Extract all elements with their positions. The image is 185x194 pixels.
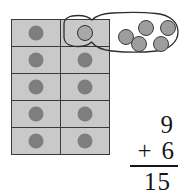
plus-sign: +: [137, 138, 151, 163]
balloon-counter-dot: [153, 36, 169, 52]
ten-frame: [11, 19, 110, 155]
counter-dot: [29, 26, 44, 41]
counter-dot: [29, 80, 44, 95]
ten-frame-cell: [60, 19, 110, 47]
ten-frame-cell: [60, 100, 110, 128]
ten-frame-cell: [11, 19, 61, 47]
addition-total: 15: [112, 169, 180, 194]
counter-dot: [78, 134, 93, 149]
counter-dot: [29, 53, 44, 68]
addend-second: 6: [162, 138, 175, 163]
ten-frame-cell: [11, 100, 61, 128]
ten-frame-cell: [60, 46, 110, 74]
counter-dot: [29, 134, 44, 149]
ten-frame-cell: [11, 73, 61, 101]
vertical-addition-problem: 9 + 6 15: [112, 112, 180, 194]
addition-rule-line: [130, 165, 178, 167]
worksheet-figure: 9 + 6 15: [0, 0, 185, 194]
balloon-counter-dot: [160, 20, 176, 36]
counter-dot: [29, 107, 44, 122]
circled-counter-dot: [77, 25, 93, 41]
ten-frame-cell: [60, 127, 110, 155]
addend-first: 9: [112, 112, 180, 137]
balloon-counter-dot: [131, 36, 147, 52]
counter-dot: [78, 80, 93, 95]
ten-frame-cell: [11, 127, 61, 155]
addend-second-row: + 6: [112, 138, 180, 163]
counter-dot: [78, 107, 93, 122]
balloon-counter-dot: [138, 20, 154, 36]
counter-dot: [78, 53, 93, 68]
ten-frame-cell: [11, 46, 61, 74]
ten-frame-cell: [60, 73, 110, 101]
